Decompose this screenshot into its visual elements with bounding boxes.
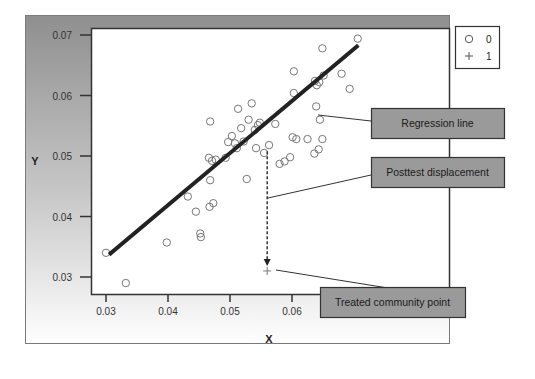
y-tick-label: 0.05 xyxy=(53,151,73,162)
x-tick-label: 0.05 xyxy=(220,306,240,317)
y-tick-label: 0.04 xyxy=(53,212,73,223)
x-tick-label: 0.04 xyxy=(158,306,178,317)
legend-label: 1 xyxy=(486,51,492,62)
annotation-label: Treated community point xyxy=(335,296,450,308)
annotation-label: Regression line xyxy=(401,117,474,129)
scatter-chart: 0.030.040.050.060.070.030.040.050.06XYRe… xyxy=(0,0,535,379)
y-tick-label: 0.06 xyxy=(53,91,73,102)
x-tick-label: 0.06 xyxy=(282,306,302,317)
y-tick-label: 0.03 xyxy=(53,272,73,283)
y-tick-label: 0.07 xyxy=(53,30,73,41)
legend-label: 0 xyxy=(486,34,492,45)
annotation-label: Posttest displacement xyxy=(386,166,489,178)
legend-box xyxy=(456,27,500,69)
x-tick-label: 0.03 xyxy=(96,306,116,317)
y-axis-label: Y xyxy=(31,155,39,167)
x-axis-label: X xyxy=(265,333,273,345)
